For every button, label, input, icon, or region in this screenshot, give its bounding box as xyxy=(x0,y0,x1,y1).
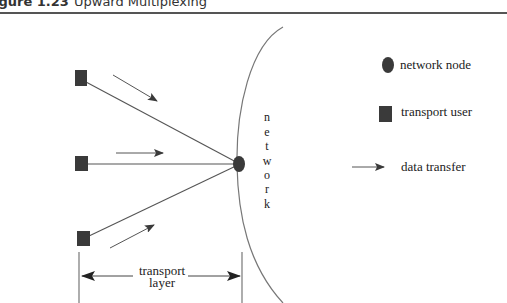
legend-item-network-node: network node xyxy=(382,57,471,73)
legend: network node transport user data transfe… xyxy=(352,57,473,174)
network-label: n e t w o r k xyxy=(263,110,272,211)
network-letter: n xyxy=(264,110,270,124)
transport-user-top-icon xyxy=(75,70,87,86)
transport-users xyxy=(75,70,90,246)
connection-line-top xyxy=(86,82,238,163)
transport-user-middle-icon xyxy=(75,156,88,171)
legend-item-transport-user: transport user xyxy=(379,104,473,122)
network-letter: r xyxy=(265,182,269,196)
connection-lines xyxy=(86,82,238,236)
network-letter: e xyxy=(264,125,269,139)
upward-multiplexing-diagram: n e t w o r k transport layer network no… xyxy=(0,0,507,303)
circle-icon xyxy=(382,57,394,73)
legend-label: data transfer xyxy=(401,159,466,174)
network-node-icon xyxy=(233,156,245,172)
data-transfer-arrow-top xyxy=(113,75,157,101)
network-letter: w xyxy=(263,154,272,168)
legend-item-data-transfer: data transfer xyxy=(352,159,466,174)
transport-layer-bracket: transport layer xyxy=(79,252,242,303)
square-icon xyxy=(379,106,392,122)
transport-user-bottom-icon xyxy=(77,231,90,246)
legend-label: transport user xyxy=(401,104,473,119)
data-transfer-arrow-bottom xyxy=(110,225,154,248)
network-letter: k xyxy=(264,197,270,211)
network-letter: t xyxy=(265,139,269,153)
network-letter: o xyxy=(264,168,270,182)
legend-label: network node xyxy=(400,57,471,72)
connection-line-bottom xyxy=(89,165,238,236)
transport-layer-label-line2: layer xyxy=(149,275,176,290)
